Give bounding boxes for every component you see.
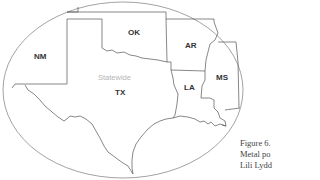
figure-caption: Figure 6. Metal po Lili Lydd <box>240 138 272 171</box>
state-label-ar: AR <box>185 42 197 50</box>
state-label-nm: NM <box>34 53 46 61</box>
state-label-la: LA <box>184 84 195 92</box>
state-label-ok: OK <box>128 29 140 37</box>
caption-line-3: Lili Lydd <box>240 160 272 171</box>
state-label-ms: MS <box>216 74 228 82</box>
state-label-tx: TX <box>115 89 125 97</box>
caption-line-1: Figure 6. <box>240 138 272 149</box>
caption-line-2: Metal po <box>240 149 272 160</box>
region-label-statewide: Statewide <box>98 74 131 82</box>
